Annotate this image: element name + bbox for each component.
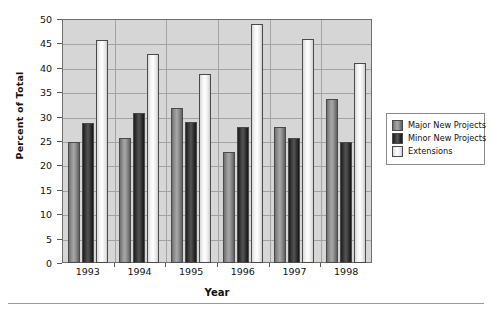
bar-1997-minor-new-projects [288, 138, 300, 263]
bar-1998-minor-new-projects [340, 142, 352, 264]
bar-1993-extensions [96, 40, 108, 264]
y-axis-tick-label: 5 [46, 233, 52, 244]
legend-label: Major New Projects [408, 120, 486, 131]
bar-1993-major-new-projects [68, 142, 80, 263]
y-axis-tick-label: 25 [40, 136, 52, 147]
y-axis-tick-label: 45 [40, 38, 52, 49]
y-axis-tick-label: 50 [40, 14, 52, 25]
bar-1997-extensions [302, 39, 314, 263]
y-axis-tick-label: 35 [40, 87, 52, 98]
bar-1998-extensions [354, 63, 366, 263]
x-axis-tick-mark [114, 263, 115, 267]
bar-group [165, 19, 217, 263]
x-axis-tick-label: 1998 [316, 266, 376, 277]
bar-1996-extensions [251, 24, 263, 263]
bar-group [269, 19, 321, 263]
legend-swatch-major-new-projects [392, 120, 403, 131]
bar-group [217, 19, 269, 263]
bar-1996-major-new-projects [223, 152, 235, 263]
bar-1995-minor-new-projects [185, 122, 197, 263]
legend-item: Minor New Projects [392, 133, 480, 144]
y-axis-tick-mark [57, 263, 62, 264]
legend-item: Extensions [392, 146, 480, 157]
x-axis-tick-mark [269, 263, 270, 267]
x-axis-title: Year [62, 287, 372, 298]
legend-swatch-minor-new-projects [392, 133, 403, 144]
y-axis-tick-label: 10 [40, 209, 52, 220]
bar-1997-major-new-projects [274, 127, 286, 263]
chart-legend: Major New Projects Minor New Projects Ex… [386, 113, 485, 165]
bar-1998-major-new-projects [326, 99, 338, 263]
y-axis-tick-label: 20 [40, 160, 52, 171]
bar-1994-major-new-projects [119, 138, 131, 263]
bar-1995-major-new-projects [171, 108, 183, 263]
bar-group [62, 19, 114, 263]
bar-group [320, 19, 372, 263]
y-axis-tick-label: 0 [46, 258, 52, 269]
legend-label: Extensions [408, 146, 452, 157]
y-axis-tick-label: 15 [40, 184, 52, 195]
y-axis-tick-label: 30 [40, 111, 52, 122]
bar-1994-extensions [147, 54, 159, 263]
bar-1995-extensions [199, 74, 211, 263]
bar-1993-minor-new-projects [82, 123, 94, 263]
legend-item: Major New Projects [392, 120, 480, 131]
chart-figure: Percent of Total 05101520253035404550 19… [0, 0, 492, 312]
bar-1996-minor-new-projects [237, 127, 249, 263]
y-axis-tick-labels: 05101520253035404550 [22, 19, 58, 263]
legend-swatch-extensions [392, 146, 403, 157]
x-axis-tick-mark [320, 263, 321, 267]
bar-group [114, 19, 166, 263]
bar-1994-minor-new-projects [133, 113, 145, 263]
x-axis-tick-mark [165, 263, 166, 267]
legend-label: Minor New Projects [408, 133, 486, 144]
x-axis-tick-mark [217, 263, 218, 267]
y-axis-tick-label: 40 [40, 62, 52, 73]
footer-divider [8, 303, 484, 304]
bar-groups [62, 19, 372, 263]
